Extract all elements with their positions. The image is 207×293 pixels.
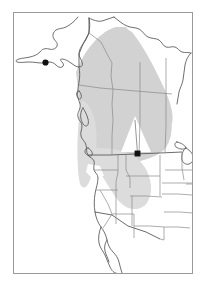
border-arizona-california <box>103 214 112 228</box>
alaska-locality-marker[interactable] <box>42 59 48 65</box>
coastline-lake-superior <box>175 142 186 149</box>
border-dakota-minnesota <box>182 152 184 180</box>
border-nebraska-kansas <box>162 194 192 195</box>
border-nevada-california <box>100 190 112 214</box>
coastline-baja <box>99 227 116 273</box>
map-canvas <box>0 0 207 293</box>
shaded-range-group <box>76 27 173 209</box>
coastline-alaska-north <box>89 17 114 21</box>
border-newmexico-texas <box>160 227 164 240</box>
coastline-hudson-bay <box>177 53 191 104</box>
border-texas-panhandle <box>164 227 190 228</box>
range-map-figure <box>0 0 207 293</box>
montana-locality-marker[interactable] <box>135 151 141 157</box>
border-kansas-oklahoma <box>164 212 193 213</box>
coastline-great-lakes <box>182 148 194 164</box>
border-colorado-newmexico <box>134 226 164 227</box>
